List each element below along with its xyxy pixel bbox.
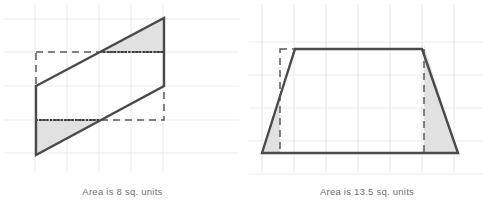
- figure-board: Area is 8 sq. units Area is 13.5 sq. uni…: [0, 0, 489, 218]
- dashed-construction-rect: [280, 49, 424, 153]
- right-figure-panel: Area is 13.5 sq. units: [245, 0, 489, 218]
- trapezoid-diagram: [245, 0, 489, 180]
- dashed-rectangle: [280, 49, 424, 153]
- right-figure-caption: Area is 13.5 sq. units: [245, 186, 489, 197]
- left-figure-panel: Area is 8 sq. units: [0, 0, 245, 218]
- left-figure-caption: Area is 8 sq. units: [0, 186, 245, 197]
- parallelogram-diagram: [0, 0, 245, 180]
